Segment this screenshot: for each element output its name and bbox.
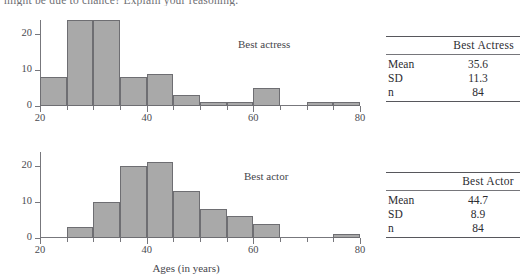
x-tick-minor — [280, 238, 281, 242]
x-tick-minor — [333, 238, 334, 242]
x-tick-label: 80 — [355, 244, 366, 255]
chart-best-actor: 0102020406080 Best actor — [0, 148, 372, 260]
x-tick-minor — [307, 106, 308, 110]
y-tick-label: 10 — [22, 195, 33, 206]
table-header-best-actress: Best Actress — [453, 39, 514, 51]
histogram-bar — [227, 216, 254, 238]
bars-actress — [40, 16, 360, 106]
histogram-bar — [173, 95, 200, 106]
histogram-bar — [67, 227, 94, 238]
row-label-n: n — [386, 86, 450, 98]
x-tick-minor — [67, 238, 68, 242]
row-label-mean: Mean — [386, 58, 450, 70]
histogram-bar — [40, 77, 67, 106]
histogram-figure: 0102020406080 Best actress 0102020406080… — [0, 10, 372, 280]
table-row: SD 8.9 — [386, 207, 520, 221]
table-row: Mean 44.7 — [386, 193, 520, 207]
histogram-bar — [173, 191, 200, 238]
y-tick-label: 0 — [27, 99, 32, 110]
y-tick-label: 20 — [22, 27, 33, 38]
x-tick-minor — [200, 238, 201, 242]
y-tick: 10 — [35, 70, 40, 71]
table-row: Mean 35.6 — [386, 57, 520, 71]
histogram-bar — [93, 202, 120, 238]
x-tick-label: 60 — [248, 112, 259, 123]
x-tick-minor — [200, 106, 201, 110]
x-tick-minor — [120, 106, 121, 110]
row-label-n: n — [386, 222, 450, 234]
x-tick-minor — [173, 238, 174, 242]
histogram-bar — [333, 234, 360, 238]
table-header-row: Best Actor — [386, 173, 520, 190]
table-bottom-rule — [386, 237, 520, 238]
x-tick-minor — [333, 106, 334, 110]
x-tick-label: 20 — [35, 112, 46, 123]
y-tick-label: 20 — [22, 159, 33, 170]
histogram-bar — [120, 166, 147, 238]
table-bottom-rule — [386, 101, 520, 102]
series-label-actor: Best actor — [244, 170, 288, 182]
histogram-bar — [93, 20, 120, 106]
row-value-mean: 44.7 — [450, 194, 520, 206]
x-tick-label: 80 — [355, 112, 366, 123]
x-tick-minor — [93, 106, 94, 110]
stats-table-best-actor: Best Actor Mean 44.7 SD 8.9 n 84 — [386, 172, 520, 238]
y-tick: 10 — [35, 202, 40, 203]
x-tick-label: 60 — [248, 244, 259, 255]
y-tick-label: 0 — [27, 231, 32, 242]
histogram-bar — [253, 88, 280, 106]
x-tick-minor — [120, 238, 121, 242]
histogram-bar — [333, 102, 360, 106]
row-label-sd: SD — [386, 208, 450, 220]
histogram-bar — [200, 209, 227, 238]
x-tick-minor — [227, 106, 228, 110]
histogram-bar — [120, 77, 147, 106]
x-axis-title: Ages (in years) — [0, 262, 372, 274]
table-header-best-actor: Best Actor — [462, 175, 514, 187]
y-tick-label: 10 — [22, 63, 33, 74]
row-value-mean: 35.6 — [450, 58, 520, 70]
stats-table-best-actress: Best Actress Mean 35.6 SD 11.3 n 84 — [386, 36, 520, 102]
x-tick-minor — [67, 106, 68, 110]
chart-best-actress: 0102020406080 Best actress — [0, 16, 372, 128]
row-value-n: 84 — [450, 86, 520, 98]
x-tick-minor — [280, 106, 281, 110]
question-text: might be due to chance? Explain your rea… — [4, 0, 304, 6]
row-label-mean: Mean — [386, 194, 450, 206]
x-tick-label: 40 — [141, 244, 152, 255]
x-tick-minor — [307, 238, 308, 242]
histogram-bar — [307, 102, 334, 106]
x-tick-label: 20 — [35, 244, 46, 255]
row-value-n: 84 — [450, 222, 520, 234]
row-value-sd: 11.3 — [450, 72, 520, 84]
y-tick: 20 — [35, 34, 40, 35]
histogram-bar — [147, 162, 174, 238]
histogram-bar — [227, 102, 254, 106]
x-tick-minor — [173, 106, 174, 110]
bars-actor — [40, 148, 360, 238]
table-row: n 84 — [386, 221, 520, 235]
histogram-bar — [200, 102, 227, 106]
table-row: n 84 — [386, 85, 520, 99]
row-value-sd: 8.9 — [450, 208, 520, 220]
row-label-sd: SD — [386, 72, 450, 84]
histogram-bar — [67, 20, 94, 106]
y-tick: 20 — [35, 166, 40, 167]
x-tick-minor — [227, 238, 228, 242]
table-header-row: Best Actress — [386, 37, 520, 54]
x-tick-label: 40 — [141, 112, 152, 123]
series-label-actress: Best actress — [238, 38, 290, 50]
histogram-bar — [253, 224, 280, 238]
histogram-bar — [147, 74, 174, 106]
table-row: SD 11.3 — [386, 71, 520, 85]
x-tick-minor — [93, 238, 94, 242]
